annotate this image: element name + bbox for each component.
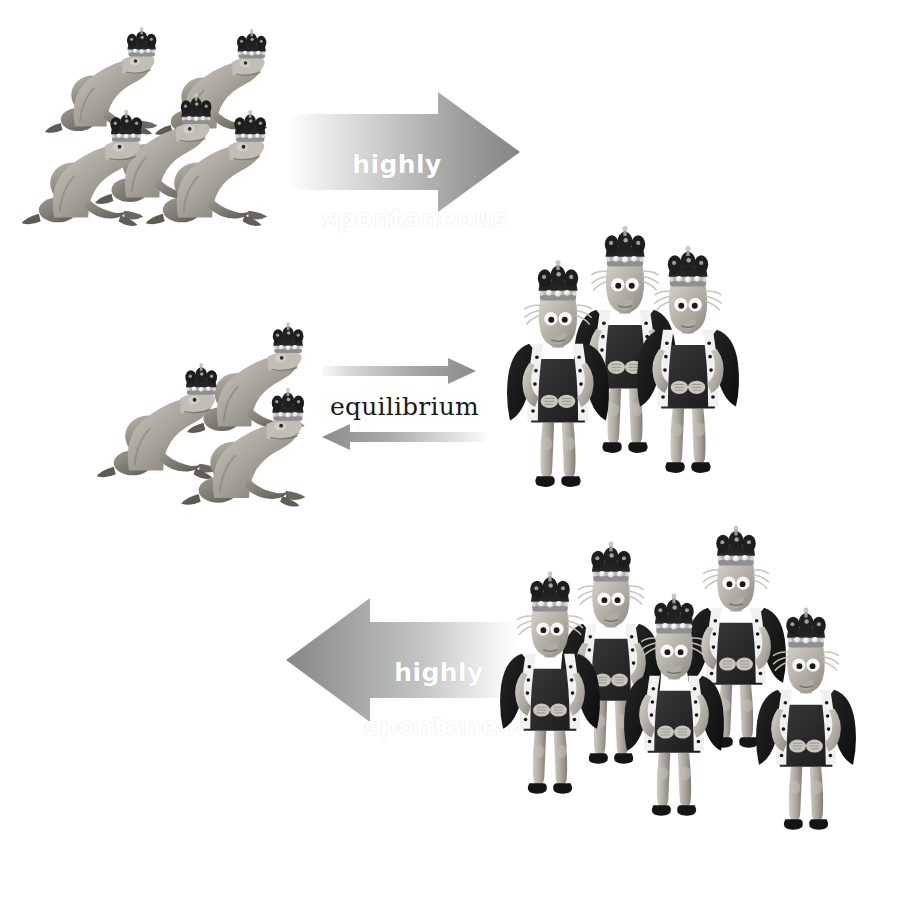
king-group-middle-right-svg xyxy=(492,242,744,544)
frog-figure xyxy=(45,27,158,134)
frog-group-middle-left-svg xyxy=(105,322,320,540)
diagram-canvas: highly spontaneous equilibrium xyxy=(0,0,918,906)
frog-figure xyxy=(97,363,219,479)
frog-group-middle-left xyxy=(105,322,320,540)
king-group-middle-right xyxy=(492,242,744,544)
frog-group-top-left xyxy=(30,25,298,283)
king-group-bottom-right-svg xyxy=(468,540,910,872)
king-group-bottom-right xyxy=(468,540,910,872)
equilibrium-arrow-forward xyxy=(322,358,476,384)
top-arrow-svg xyxy=(288,92,520,212)
equilibrium-arrow-reverse xyxy=(322,424,486,450)
equilibrium-forward-svg xyxy=(322,358,476,384)
king-figure xyxy=(507,260,609,487)
frog-group-top-left-svg xyxy=(30,25,298,283)
equilibrium-reverse-svg xyxy=(322,424,486,450)
arrow-highly-spontaneous-right: highly spontaneous xyxy=(288,92,520,212)
king-figure xyxy=(637,246,739,473)
equilibrium-label: equilibrium xyxy=(330,392,479,421)
king-figure xyxy=(500,572,600,794)
